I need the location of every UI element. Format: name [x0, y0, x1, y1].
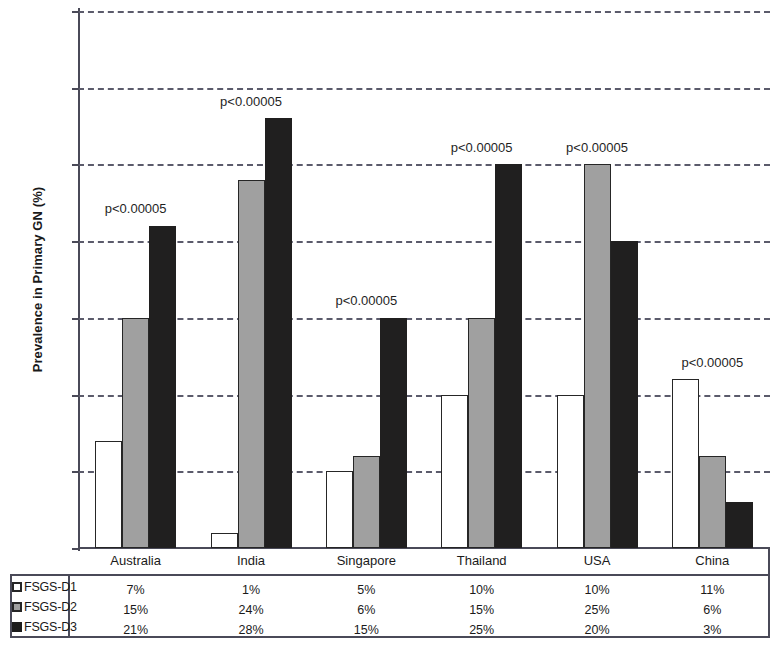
y-axis-tick: [72, 241, 79, 243]
p-value-annotation-usa: p<0.00005: [566, 140, 628, 155]
y-axis-title: Prevalence in Primary GN (%): [30, 115, 45, 445]
table-cell: 6%: [357, 603, 375, 617]
p-value-annotation-thailand: p<0.00005: [451, 140, 513, 155]
bar-singapore-fsgs-d3: [380, 318, 407, 548]
gridline: [78, 241, 770, 243]
y-axis-tick: [72, 164, 79, 166]
p-value-annotation-india: p<0.00005: [220, 94, 282, 109]
p-value-annotation-singapore: p<0.00005: [335, 293, 397, 308]
bar-china-fsgs-d2: [699, 456, 726, 548]
y-axis-tick: [72, 395, 79, 397]
table-cell: 6%: [703, 603, 721, 617]
table-cell: 15%: [469, 603, 494, 617]
table-cell: 3%: [703, 623, 721, 637]
gridline: [78, 318, 770, 320]
bar-usa-fsgs-d3: [611, 241, 638, 548]
bar-china-fsgs-d3: [726, 502, 753, 548]
bar-india-fsgs-d1: [211, 533, 238, 548]
legend-swatch-icon-fsgs-d2: [12, 602, 22, 612]
bar-thailand-fsgs-d2: [468, 318, 495, 548]
table-cell: 5%: [357, 583, 375, 597]
gridline: [78, 11, 770, 13]
bar-india-fsgs-d2: [238, 180, 265, 548]
bar-australia-fsgs-d2: [122, 318, 149, 548]
gridline: [78, 164, 770, 166]
table-cell: 10%: [584, 583, 609, 597]
plot-area: 00.050.10.150.20.250.30.35p<0.00005p<0.0…: [78, 11, 770, 548]
bar-singapore-fsgs-d2: [353, 456, 380, 548]
legend-label: FSGS-D2: [24, 600, 77, 614]
gridline: [78, 88, 770, 90]
table-cell: 24%: [238, 603, 263, 617]
gridline: [78, 395, 770, 397]
category-label-australia: Australia: [110, 553, 161, 568]
table-cell: 25%: [469, 623, 494, 637]
bar-australia-fsgs-d1: [95, 441, 122, 548]
y-axis-tick: [72, 88, 79, 90]
category-label-china: China: [695, 553, 729, 568]
category-label-india: India: [237, 553, 265, 568]
table-cell: 21%: [123, 623, 148, 637]
bar-thailand-fsgs-d3: [495, 164, 522, 548]
category-label-thailand: Thailand: [457, 553, 507, 568]
y-axis-tick: [72, 318, 79, 320]
legend-item-fsgs-d2: FSGS-D2: [12, 597, 77, 617]
legend-label: FSGS-D3: [24, 620, 77, 634]
table-cell: 25%: [584, 603, 609, 617]
category-row-right-border: [768, 549, 770, 576]
p-value-annotation-australia: p<0.00005: [105, 201, 167, 216]
legend-swatch-icon-fsgs-d1: [12, 582, 22, 592]
legend-label: FSGS-D1: [24, 580, 77, 594]
table-cell: 15%: [354, 623, 379, 637]
table-cell: 11%: [700, 583, 724, 597]
bar-thailand-fsgs-d1: [441, 395, 468, 548]
table-cell: 10%: [469, 583, 494, 597]
y-axis-tick: [72, 11, 79, 13]
bar-australia-fsgs-d3: [149, 226, 176, 548]
bar-india-fsgs-d3: [265, 118, 292, 548]
table-cell: 1%: [242, 583, 260, 597]
p-value-annotation-china: p<0.00005: [681, 355, 743, 370]
bar-usa-fsgs-d1: [557, 395, 584, 548]
bar-china-fsgs-d1: [672, 379, 699, 548]
category-label-row: AustraliaIndiaSingaporeThailandUSAChina: [78, 549, 770, 575]
bar-chart-figure: Prevalence in Primary GN (%) 00.050.10.1…: [0, 0, 779, 647]
gridline: [78, 471, 770, 473]
bar-usa-fsgs-d2: [584, 164, 611, 548]
legend-item-fsgs-d3: FSGS-D3: [12, 617, 77, 637]
legend-swatch-icon-fsgs-d3: [12, 622, 22, 632]
table-cell: 15%: [123, 603, 148, 617]
y-axis-tick: [72, 471, 79, 473]
bar-singapore-fsgs-d1: [326, 471, 353, 548]
table-cell: 20%: [584, 623, 609, 637]
legend-item-fsgs-d1: FSGS-D1: [12, 577, 77, 597]
table-cell: 28%: [238, 623, 263, 637]
chart-legend: FSGS-D1FSGS-D2FSGS-D3: [12, 576, 68, 636]
table-cell: 7%: [127, 583, 145, 597]
category-label-singapore: Singapore: [337, 553, 396, 568]
category-label-usa: USA: [584, 553, 611, 568]
